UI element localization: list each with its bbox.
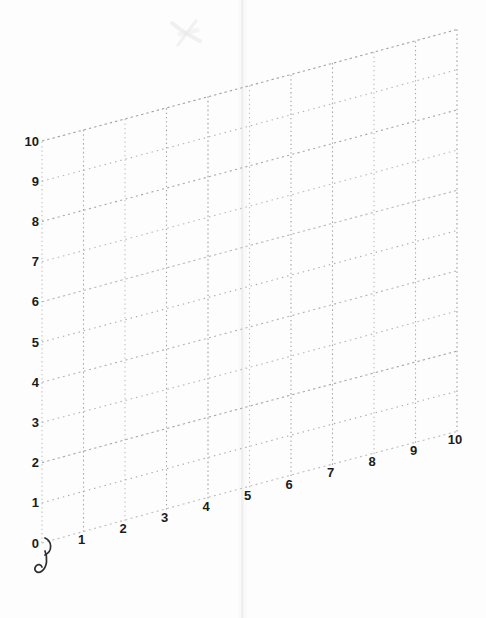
- x-axis-tick-label: 2: [119, 521, 126, 536]
- y-axis-tick-label: 0: [32, 536, 39, 551]
- x-axis-tick-label: 10: [448, 432, 462, 447]
- oblique-grid-chart: 10987654321012345678910: [0, 0, 486, 618]
- y-axis-tick-label: 7: [32, 254, 39, 269]
- x-axis-tick-label: 3: [161, 510, 168, 525]
- x-axis-tick-label: 7: [327, 465, 334, 480]
- scan-smudge: [172, 21, 200, 45]
- grid-line-horizontal: [42, 391, 457, 503]
- x-axis-tick-label: 5: [244, 488, 251, 503]
- y-axis-tick-label: 9: [32, 174, 39, 189]
- grid-line-horizontal: [42, 231, 457, 343]
- x-axis-tick-label: 6: [285, 477, 292, 492]
- y-axis-tick-label: 1: [32, 495, 39, 510]
- x-axis-tick-label: 1: [78, 532, 85, 547]
- scan-fold-line: [241, 0, 244, 618]
- scanned-page: 10987654321012345678910: [0, 0, 486, 618]
- grid-layer: [42, 30, 457, 544]
- x-axis-tick-label: 9: [410, 443, 417, 458]
- y-axis-tick-label: 4: [32, 375, 40, 390]
- y-axis-tick-label: 10: [25, 134, 39, 149]
- y-axis-tick-label: 8: [32, 214, 39, 229]
- y-axis-tick-label: 2: [32, 455, 39, 470]
- grid-line-horizontal: [42, 190, 457, 301]
- y-axis-tick-label: 6: [32, 294, 39, 309]
- x-axis-tick-label: 4: [202, 499, 210, 514]
- y-axis-tick-label: 5: [32, 335, 39, 350]
- x-axis-tick-label: 8: [368, 454, 375, 469]
- y-axis-tick-label: 3: [32, 415, 39, 430]
- scan-artifacts-layer: [172, 0, 247, 618]
